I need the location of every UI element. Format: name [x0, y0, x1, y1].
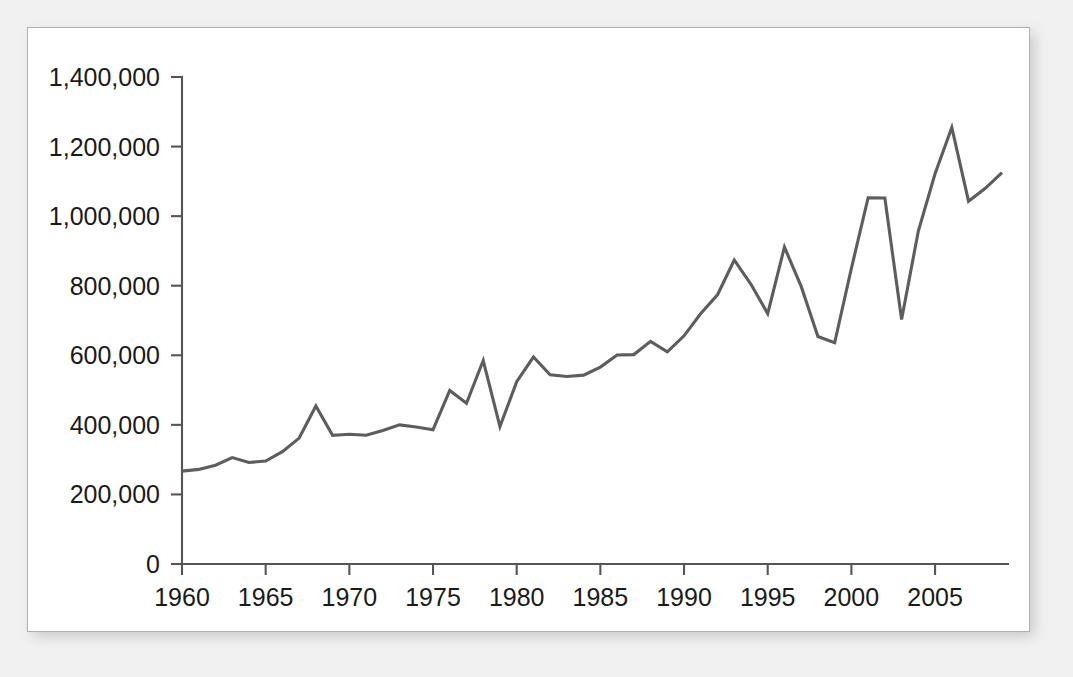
y-axis-tick-label: 1,000,000 — [49, 202, 160, 230]
x-axis-tick-label: 2005 — [907, 583, 963, 611]
x-axis-tick-label: 1990 — [656, 583, 712, 611]
x-axis-tick-label: 2000 — [824, 583, 880, 611]
chart-panel: 0200,000400,000600,000800,0001,000,0001,… — [27, 27, 1030, 632]
x-axis-tick-label: 1960 — [154, 583, 210, 611]
x-axis-tick-label: 1985 — [573, 583, 629, 611]
x-axis-tick-label: 1980 — [489, 583, 545, 611]
page-root: 0200,000400,000600,000800,0001,000,0001,… — [0, 0, 1073, 677]
y-axis-tick-label: 400,000 — [70, 411, 160, 439]
y-axis-tick-label: 200,000 — [70, 480, 160, 508]
x-axis-tick-label: 1970 — [322, 583, 378, 611]
x-axis-tick-label: 1975 — [405, 583, 461, 611]
y-axis-tick-label: 1,200,000 — [49, 133, 160, 161]
x-axis-tick-label: 1995 — [740, 583, 796, 611]
y-axis-tick-label: 1,400,000 — [49, 63, 160, 91]
y-axis-tick-marks — [171, 77, 182, 564]
y-axis-tick-label: 800,000 — [70, 272, 160, 300]
data-series-line — [182, 127, 1002, 471]
y-axis-tick-labels: 0200,000400,000600,000800,0001,000,0001,… — [49, 63, 160, 578]
x-axis-tick-label: 1965 — [238, 583, 294, 611]
x-axis-tick-labels: 1960196519701975198019851990199520002005 — [154, 583, 963, 611]
line-chart-plot: 0200,000400,000600,000800,0001,000,0001,… — [28, 28, 1029, 631]
y-axis-tick-label: 0 — [146, 550, 160, 578]
x-axis-tick-marks — [182, 564, 935, 575]
y-axis-tick-label: 600,000 — [70, 341, 160, 369]
